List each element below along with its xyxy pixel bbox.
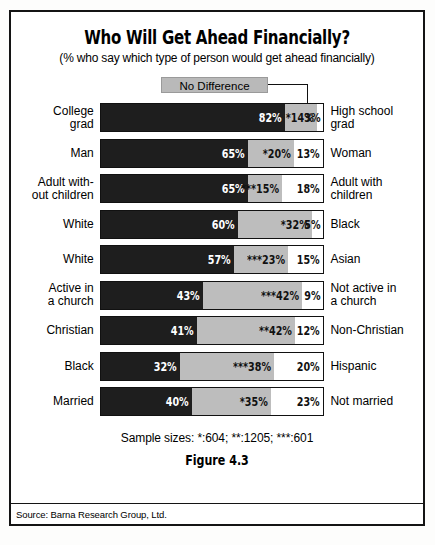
row-label-right: Black <box>324 218 423 231</box>
bar-segment-value: ***23% <box>247 252 288 267</box>
chart-row: Adult with-out children65%***15%18%Adult… <box>11 172 423 205</box>
bar-segment-left: 65% <box>101 175 249 202</box>
row-label-right: Not married <box>324 395 423 408</box>
bar-segment-value: *35% <box>240 394 271 409</box>
bar-segment-value: 15% <box>297 252 323 267</box>
row-label-left: Active ina church <box>11 282 100 308</box>
bar-segment-no-difference: ***38% <box>180 353 274 380</box>
legend-no-difference-label: No Difference <box>161 77 268 93</box>
bar-segment-value: 60% <box>212 217 238 232</box>
row-label-left: Black <box>11 360 100 373</box>
row-label-right: Not active ina church <box>324 282 423 308</box>
bar-segment-value: 5% <box>304 217 324 232</box>
figure-number: Figure 4.3 <box>36 452 399 468</box>
bar-segment-left: 57% <box>101 246 235 273</box>
bar-segment-no-difference: *20% <box>248 140 293 167</box>
bar-segment-no-difference: **42% <box>197 317 295 344</box>
bar-segment-right: 18% <box>282 175 323 202</box>
stacked-bar: 57%***23%15% <box>100 245 325 274</box>
bar-segment-value: 9% <box>304 288 324 303</box>
chart-row: Man65%*20%13%Woman <box>11 137 423 170</box>
row-label-left: Christian <box>11 324 100 337</box>
stacked-bar: 41%**42%12% <box>100 316 325 345</box>
source-divider <box>11 503 423 504</box>
stacked-bar: 43%***42%9% <box>100 281 325 310</box>
bar-segment-left: 60% <box>101 211 239 238</box>
chart-row: Christian41%**42%12%Non-Christian <box>11 314 423 347</box>
chart-row: Black32%***38%20%Hispanic <box>11 350 423 383</box>
row-label-right: Hispanic <box>324 360 423 373</box>
bar-segment-right: 12% <box>295 317 323 344</box>
bar-segment-value: 13% <box>297 146 323 161</box>
bar-segment-value: **42% <box>259 323 295 338</box>
row-label-left: Man <box>11 147 100 160</box>
bar-segment-value: ***38% <box>233 359 274 374</box>
bar-segment-right: 5% <box>312 211 323 238</box>
figure-frame: Who Will Get Ahead Financially? (% who s… <box>9 10 425 526</box>
chart-row: Active ina church43%***42%9%Not active i… <box>11 279 423 312</box>
source-note: Source: Barna Research Group, Ltd. <box>16 509 167 520</box>
bar-segment-value: 20% <box>297 359 323 374</box>
bar-segment-value: *20% <box>263 146 294 161</box>
chart-row: Collegegrad82%*14%3%High schoolgrad <box>11 101 423 134</box>
bar-segment-left: 41% <box>101 317 197 344</box>
stacked-bar: 65%***15%18% <box>100 174 325 203</box>
figure-subtitle: (% who say which type of person would ge… <box>19 51 415 65</box>
bar-segment-left: 32% <box>101 353 180 380</box>
bar-segment-value: 23% <box>297 394 323 409</box>
row-label-right: Asian <box>324 253 423 266</box>
chart-row: White60%*32%5%Black <box>11 208 423 241</box>
row-label-left: Married <box>11 395 100 408</box>
bar-segment-right: 20% <box>274 353 323 380</box>
chart-row: White57%***23%15%Asian <box>11 243 423 276</box>
bar-segment-value: 40% <box>165 394 191 409</box>
bar-segment-value: 57% <box>208 252 234 267</box>
stacked-bar: 40%*35%23% <box>100 387 325 416</box>
bar-segment-no-difference: ***23% <box>234 246 288 273</box>
bar-segment-right: 13% <box>294 140 324 167</box>
bar-segment-value: 65% <box>222 146 248 161</box>
bar-segment-right: 3% <box>317 104 324 131</box>
bar-segment-no-difference: ***15% <box>248 175 282 202</box>
bar-segment-right: 23% <box>271 388 323 415</box>
bar-segment-value: 32% <box>154 359 180 374</box>
bar-segment-right: 15% <box>288 246 323 273</box>
row-label-right: Adult withchildren <box>324 176 423 202</box>
stacked-bar: 60%*32%5% <box>100 210 325 239</box>
bar-segment-value: 41% <box>171 323 197 338</box>
bar-segment-value: 18% <box>297 181 323 196</box>
sample-sizes-note: Sample sizes: *:604; **:1205; ***:601 <box>11 431 423 445</box>
bar-segment-left: 43% <box>101 282 203 309</box>
row-label-right: High schoolgrad <box>324 105 423 131</box>
chart-row: Married40%*35%23%Not married <box>11 385 423 418</box>
bar-segment-no-difference: ***42% <box>203 282 302 309</box>
bar-segment-left: 65% <box>101 140 249 167</box>
bar-segment-no-difference: *35% <box>192 388 272 415</box>
bar-segment-value: ***42% <box>261 288 302 303</box>
bar-segment-no-difference: *32% <box>238 211 311 238</box>
row-label-left: White <box>11 218 100 231</box>
bar-segment-left: 82% <box>101 104 285 131</box>
row-label-left: White <box>11 253 100 266</box>
bar-segment-value: ***15% <box>241 181 282 196</box>
stacked-bar: 32%***38%20% <box>100 352 325 381</box>
stacked-bar: 65%*20%13% <box>100 139 325 168</box>
bar-segment-value: 3% <box>304 110 324 125</box>
row-label-right: Woman <box>324 147 423 160</box>
row-label-right: Non-Christian <box>324 324 423 337</box>
stacked-bar: 82%*14%3% <box>100 103 325 132</box>
figure-page: Who Will Get Ahead Financially? (% who s… <box>0 0 435 545</box>
chart-rows: Collegegrad82%*14%3%High schoolgradMan65… <box>11 101 423 418</box>
bar-segment-right: 9% <box>302 282 323 309</box>
row-label-left: Collegegrad <box>11 105 100 131</box>
bar-segment-value: 12% <box>297 323 323 338</box>
bar-segment-value: 82% <box>259 110 285 125</box>
row-label-left: Adult with-out children <box>11 176 100 202</box>
page-title: Who Will Get Ahead Financially? <box>36 26 399 48</box>
bar-segment-value: 43% <box>176 288 202 303</box>
legend: No Difference <box>11 73 423 103</box>
bar-segment-left: 40% <box>101 388 192 415</box>
